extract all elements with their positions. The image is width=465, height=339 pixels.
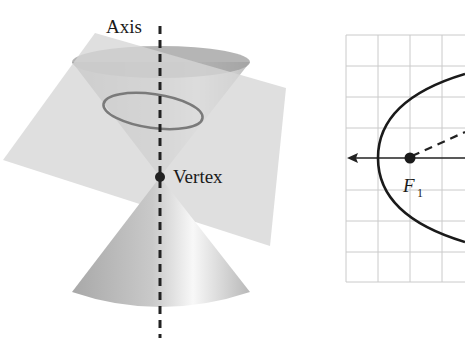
parabola-graph: F 1: [346, 35, 465, 282]
vertex-label: Vertex: [173, 166, 223, 187]
double-cone-diagram: Axis Vertex: [3, 16, 286, 338]
focus-label: F: [402, 175, 415, 196]
axis-label: Axis: [106, 16, 142, 37]
conic-section-figure: Axis Vertex F 1: [0, 0, 465, 339]
focus-point: [405, 153, 416, 164]
focus-subscript: 1: [417, 186, 423, 200]
vertex-point: [155, 172, 165, 182]
focal-segment: [412, 132, 465, 156]
